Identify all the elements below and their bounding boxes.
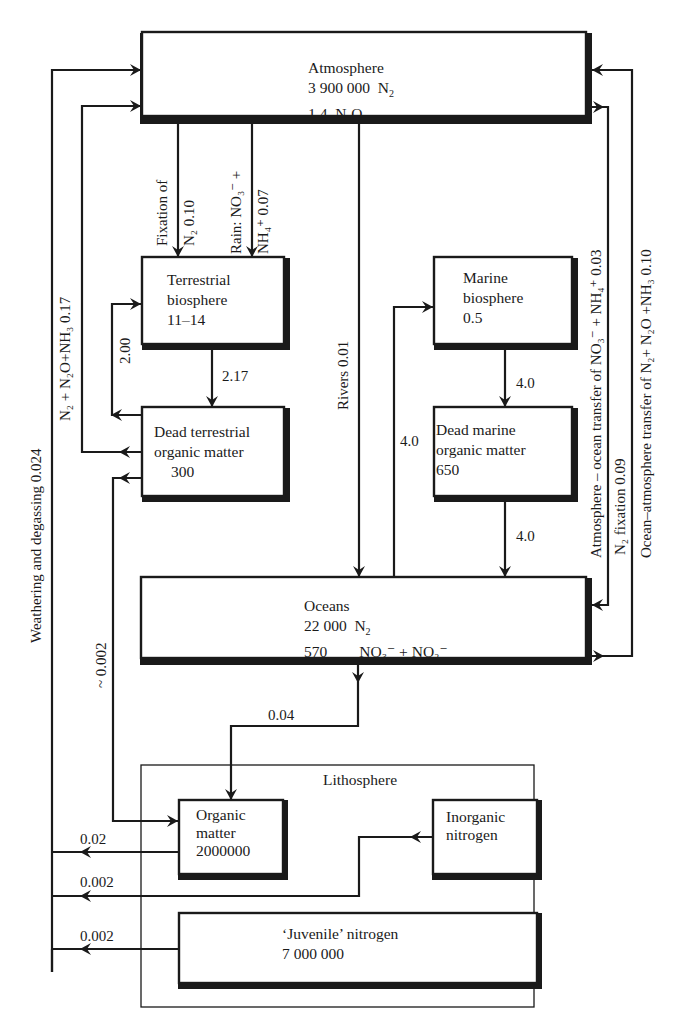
flow-label-ocean-atm-transfer: Ocean–atmosphere transfer of N₂+ N₂O +NH… bbox=[637, 249, 655, 558]
terrestrial-biosphere-label: Terrestrial biosphere 11–14 bbox=[167, 270, 230, 330]
marine-biosphere-label: Marine biosphere 0.5 bbox=[463, 268, 523, 328]
organic-matter-label: Organic matter 2000000 bbox=[196, 806, 250, 860]
flow-label-dead-marine-to-ocean: 4.0 bbox=[516, 527, 535, 545]
flow-label-rain-line2: NH₄⁺ 0.07 bbox=[254, 189, 272, 254]
flow-label-organic-weathering: 0.02 bbox=[80, 830, 106, 848]
flow-label-ocean-to-marine: 4.0 bbox=[400, 432, 419, 450]
flow-label-atm-ocean-transfer: Atmosphere – ocean transfer of NO₃⁻ + NH… bbox=[587, 250, 605, 558]
flow-label-marine-to-dead: 4.0 bbox=[516, 374, 535, 392]
flow-label-ocean-to-litho: 0.04 bbox=[268, 706, 294, 724]
flow-label-2-17: 2.17 bbox=[222, 367, 248, 385]
flow-label-juvenile-degassing: 0.002 bbox=[80, 927, 114, 945]
inorganic-nitrogen-label: Inorganic nitrogen bbox=[446, 808, 505, 844]
dead-terrestrial-label: Dead terrestrial organic matter 300 bbox=[154, 422, 250, 482]
atmosphere-label: Atmosphere 3 900 000 N2 1.4 N2O bbox=[308, 58, 394, 130]
flow-label-dead-to-litho: ~ 0.002 bbox=[92, 642, 110, 688]
flow-label-weathering: Weathering and degassing 0.024 bbox=[27, 448, 45, 643]
lithosphere-label: Lithosphere bbox=[323, 770, 397, 790]
flow-label-2-00: 2.00 bbox=[116, 338, 134, 364]
flow-label-inorganic-weathering: 0.002 bbox=[80, 873, 114, 891]
dead-marine-label: Dead marine organic matter 650 bbox=[436, 420, 526, 480]
flow-label-fixation-line2: N₂ 0.10 bbox=[180, 200, 198, 246]
flow-label-denitrification-land: N₂ + N₂O+NH₃ 0.17 bbox=[56, 297, 74, 421]
flow-label-rain-line1: Rain: NO₃⁻ + bbox=[227, 171, 245, 254]
juvenile-nitrogen-label: ‘Juvenile’ nitrogen 7 000 000 bbox=[282, 924, 398, 964]
flow-label-n2-fixation-marine: N₂ fixation 0.09 bbox=[611, 459, 629, 555]
flow-label-fixation-line1: Fixation of bbox=[153, 180, 171, 246]
oceans-label: Oceans 22 000 N2 570NO₃⁻ + NO₂⁻ bbox=[304, 596, 448, 662]
flow-label-rivers: Rivers 0.01 bbox=[334, 341, 352, 410]
